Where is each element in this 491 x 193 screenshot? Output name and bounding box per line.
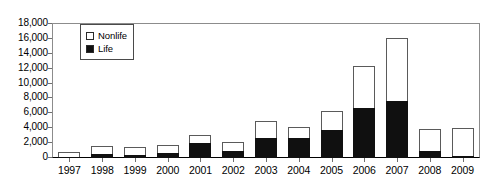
x-axis-tick-mark	[364, 158, 365, 162]
x-axis-tick-mark	[397, 158, 398, 162]
bar-slot	[184, 24, 217, 158]
x-axis-tick-label: 1998	[86, 164, 119, 176]
y-axis: 18,00016,00014,00012,00010,0008,0006,000…	[0, 23, 48, 158]
x-axis-tick-label: 2008	[413, 164, 446, 176]
bar-segment-nonlife	[222, 142, 244, 151]
bar-segment-nonlife	[189, 135, 211, 143]
x-axis-tick-mark	[69, 158, 70, 162]
bar-segment-life	[222, 151, 244, 158]
bar-slot	[446, 24, 479, 158]
x-axis-tick-mark	[266, 158, 267, 162]
bar-stack	[222, 142, 244, 158]
chart-legend: Nonlife Life	[80, 24, 134, 60]
bar-stack	[124, 147, 146, 158]
y-axis-tick-label: 4,000	[0, 122, 48, 132]
x-axis-tick-label: 2006	[348, 164, 381, 176]
legend-item-nonlife: Nonlife	[86, 29, 127, 42]
bar-slot	[250, 24, 283, 158]
bar-slot	[315, 24, 348, 158]
bar-segment-nonlife	[124, 147, 146, 155]
legend-label-life: Life	[98, 44, 113, 54]
bar-segment-nonlife	[157, 145, 179, 153]
bar-segment-life	[419, 151, 441, 158]
bar-stack	[288, 127, 310, 158]
legend-swatch-life-icon	[86, 45, 94, 53]
x-axis-tick-mark	[102, 158, 103, 162]
x-axis-tick-mark	[332, 158, 333, 162]
bar-segment-nonlife	[321, 111, 343, 129]
legend-label-nonlife: Nonlife	[98, 31, 127, 41]
x-axis-tick-label: 1997	[53, 164, 86, 176]
bar-segment-nonlife	[419, 129, 441, 151]
bar-segment-nonlife	[353, 66, 375, 108]
bar-segment-life	[255, 138, 277, 158]
bar-stack	[386, 38, 408, 158]
bar-slot	[413, 24, 446, 158]
bar-segment-life	[321, 130, 343, 158]
x-axis: 1997199819992000200120022003200420052006…	[53, 164, 479, 176]
bar-segment-nonlife	[91, 146, 113, 154]
y-axis-tick-label: 14,000	[0, 48, 48, 58]
x-axis-tick-label: 2002	[217, 164, 250, 176]
stacked-bar-chart: 18,00016,00014,00012,00010,0008,0006,000…	[0, 0, 491, 193]
x-axis-tick-mark	[233, 158, 234, 162]
bar-segment-life	[353, 108, 375, 158]
bar-slot	[217, 24, 250, 158]
y-axis-tick-label: 10,000	[0, 78, 48, 88]
bar-slot	[381, 24, 414, 158]
bar-segment-nonlife	[288, 127, 310, 139]
y-axis-tick-label: 12,000	[0, 63, 48, 73]
bar-segment-life	[386, 101, 408, 158]
x-axis-tick-mark	[200, 158, 201, 162]
y-axis-tick-label: 8,000	[0, 92, 48, 102]
bar-segment-nonlife	[452, 128, 474, 156]
x-axis-tick-mark	[135, 158, 136, 162]
x-axis-tick-label: 2003	[250, 164, 283, 176]
x-axis-tick-label: 1999	[119, 164, 152, 176]
y-axis-tick-label: 18,000	[0, 18, 48, 28]
bar-segment-nonlife	[386, 38, 408, 101]
bar-stack	[321, 111, 343, 158]
y-axis-tick-label: 0	[0, 152, 48, 162]
bar-segment-life	[189, 143, 211, 158]
bar-stack	[452, 128, 474, 158]
y-axis-tick-label: 16,000	[0, 33, 48, 43]
x-axis-tick-label: 2000	[151, 164, 184, 176]
bar-slot	[151, 24, 184, 158]
x-axis-tick-label: 2005	[315, 164, 348, 176]
bar-stack	[189, 135, 211, 158]
bar-stack	[353, 66, 375, 158]
x-axis-tick-label: 2001	[184, 164, 217, 176]
x-axis-tick-mark	[463, 158, 464, 162]
bar-segment-nonlife	[255, 121, 277, 138]
bar-stack	[91, 146, 113, 158]
bar-slot	[282, 24, 315, 158]
bar-segment-life	[288, 138, 310, 158]
x-axis-tick-mark	[299, 158, 300, 162]
x-axis-tick-mark	[168, 158, 169, 162]
bar-stack	[255, 121, 277, 158]
x-axis-tick-label: 2007	[381, 164, 414, 176]
x-axis-tick-mark	[430, 158, 431, 162]
x-axis-tick-label: 2004	[282, 164, 315, 176]
y-axis-tick-label: 2,000	[0, 137, 48, 147]
legend-swatch-nonlife-icon	[86, 32, 94, 40]
bar-stack	[157, 145, 179, 158]
x-axis-tick-label: 2009	[446, 164, 479, 176]
bar-stack	[419, 129, 441, 158]
bar-slot	[348, 24, 381, 158]
legend-item-life: Life	[86, 42, 127, 55]
y-axis-tick-label: 6,000	[0, 107, 48, 117]
